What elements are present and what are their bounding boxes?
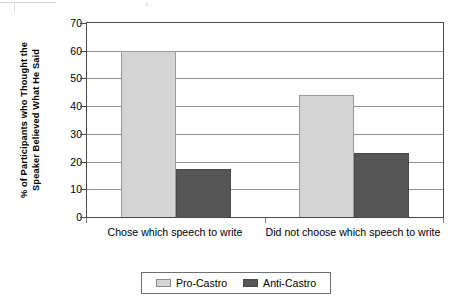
legend-label-pro-castro: Pro-Castro	[176, 277, 227, 289]
dark-gray-swatch-icon	[243, 279, 258, 287]
bar-pro-castro-group-1	[121, 51, 176, 217]
y-axis-title: % of Participants who Thought the Speake…	[0, 0, 60, 240]
x-axis-label-group-1: Chose which speech to write	[87, 226, 263, 239]
y-axis-tick-labels: 010203040506070	[56, 22, 82, 218]
x-axis-tick-mid	[265, 218, 266, 223]
x-axis-tick-right	[443, 218, 444, 223]
legend-item-anti-castro: Anti-Castro	[243, 277, 316, 289]
legend-label-anti-castro: Anti-Castro	[263, 277, 316, 289]
bar-anti-castro-group-1	[176, 169, 231, 218]
y-axis-title-line-2: Speaker Believed What He Said	[30, 42, 42, 198]
bar-pro-castro-group-2	[299, 95, 354, 217]
x-axis-label-group-2: Did not choose which speech to write	[265, 226, 441, 239]
legend-item-pro-castro: Pro-Castro	[156, 277, 227, 289]
x-axis-tick-left	[86, 218, 87, 223]
bar-anti-castro-group-2	[354, 153, 409, 217]
x-axis-category-labels: Chose which speech to writeDid not choos…	[86, 226, 444, 266]
bar-chart-figure: % of Participants who Thought the Speake…	[0, 0, 468, 308]
scan-artifact-dot	[146, 3, 148, 6]
light-gray-swatch-icon	[156, 279, 171, 287]
y-axis-title-line-1: % of Participants who Thought the	[19, 42, 31, 198]
plot-area	[86, 22, 444, 218]
chart-legend: Pro-Castro Anti-Castro	[141, 272, 331, 294]
